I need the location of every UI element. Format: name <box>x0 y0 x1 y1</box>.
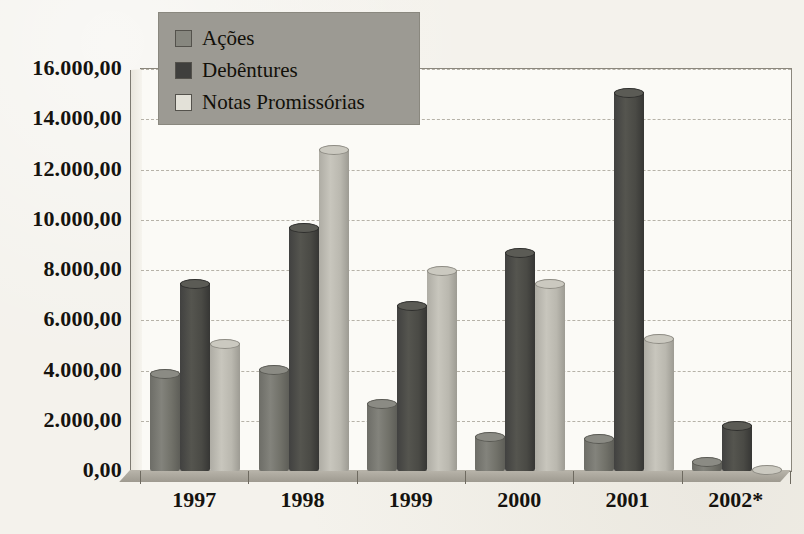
x-axis: 199719981999200020012002* <box>140 487 790 527</box>
x-axis-tick-label: 1998 <box>281 487 325 513</box>
legend-item[interactable]: Ações <box>159 22 419 54</box>
bar-top-cap <box>427 266 457 276</box>
bar-top-cap <box>692 457 722 467</box>
bar-body <box>397 305 427 471</box>
bar-body <box>427 270 457 471</box>
bar <box>289 227 319 471</box>
y-axis-tick-label: 14.000,00 <box>0 105 122 131</box>
bar <box>752 469 782 472</box>
y-axis-tick-label: 10.000,00 <box>0 206 122 232</box>
bar-top-cap <box>644 334 674 344</box>
bar-top-cap <box>150 369 180 379</box>
bar-body <box>259 369 289 471</box>
bar-body <box>644 338 674 471</box>
legend-item[interactable]: Debêntures <box>159 54 419 86</box>
gridline <box>141 220 791 221</box>
plot-area <box>140 68 792 472</box>
bar-top-cap <box>475 432 505 442</box>
bar <box>584 438 614 471</box>
bar-body <box>614 92 644 471</box>
gridline <box>141 170 791 171</box>
gridline <box>141 270 791 271</box>
bar <box>505 252 535 471</box>
bar-body <box>722 425 752 471</box>
bar-body <box>367 403 397 471</box>
legend-item-label: Ações <box>202 28 254 49</box>
legend: Ações Debêntures Notas Promissórias <box>158 12 420 125</box>
y-axis-tick-label: 16.000,00 <box>0 55 122 81</box>
bar-body <box>210 343 240 471</box>
x-axis-tick-mark <box>790 471 791 484</box>
bar <box>644 338 674 471</box>
notas-promissorias-swatch-icon <box>175 94 192 111</box>
bar-body <box>505 252 535 471</box>
bar <box>722 425 752 471</box>
bar <box>535 283 565 471</box>
bar-body <box>150 373 180 471</box>
bar-top-cap <box>535 279 565 289</box>
bar-top-cap <box>210 339 240 349</box>
x-axis-tick-mark <box>140 471 141 484</box>
bar <box>427 270 457 471</box>
x-axis-tick-mark <box>248 471 249 484</box>
bar <box>259 369 289 471</box>
bar <box>180 283 210 471</box>
x-axis-tick-label: 2001 <box>606 487 650 513</box>
bar-body <box>319 149 349 471</box>
bar-body <box>180 283 210 471</box>
x-axis-tick-mark <box>465 471 466 484</box>
bar-top-cap <box>722 421 752 431</box>
y-axis-tick-label: 12.000,00 <box>0 156 122 182</box>
bar-top-cap <box>614 88 644 98</box>
x-axis-tick-mark <box>573 471 574 484</box>
plot-floor <box>119 470 791 482</box>
acoes-swatch-icon <box>175 30 192 47</box>
bar-body <box>535 283 565 471</box>
bar <box>210 343 240 471</box>
legend-item-label: Debêntures <box>202 60 298 81</box>
x-axis-tick-mark <box>682 471 683 484</box>
y-axis-tick-label: 0,00 <box>0 457 122 483</box>
bar <box>319 149 349 471</box>
x-axis-tick-label: 2002* <box>708 487 763 513</box>
x-axis-tick-label: 2000 <box>497 487 541 513</box>
x-axis-tick-mark <box>357 471 358 484</box>
y-axis: 0,002.000,004.000,006.000,008.000,0010.0… <box>0 0 122 534</box>
debentures-swatch-icon <box>175 62 192 79</box>
x-axis-tick-label: 1999 <box>389 487 433 513</box>
bar <box>397 305 427 471</box>
bar <box>475 436 505 471</box>
bar <box>692 461 722 471</box>
bar-top-cap <box>752 465 782 475</box>
y-axis-tick-label: 8.000,00 <box>0 256 122 282</box>
bar-body <box>289 227 319 471</box>
legend-item-label: Notas Promissórias <box>202 92 365 113</box>
bar-chart-figure: 0,002.000,004.000,006.000,008.000,0010.0… <box>0 0 804 534</box>
y-axis-tick-label: 6.000,00 <box>0 306 122 332</box>
y-axis-tick-label: 4.000,00 <box>0 357 122 383</box>
y-axis-tick-label: 2.000,00 <box>0 407 122 433</box>
gridline <box>141 320 791 321</box>
bar <box>367 403 397 471</box>
bar <box>614 92 644 471</box>
bar-top-cap <box>180 279 210 289</box>
bar <box>150 373 180 471</box>
legend-item[interactable]: Notas Promissórias <box>159 86 419 118</box>
x-axis-tick-label: 1997 <box>172 487 216 513</box>
